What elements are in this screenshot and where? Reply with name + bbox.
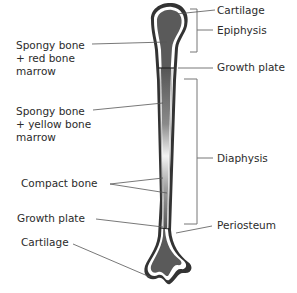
label-diaphysis: Diaphysis — [217, 152, 268, 165]
leader-lines — [73, 10, 215, 277]
brackets — [184, 9, 213, 224]
diaphysis-bracket — [184, 79, 197, 224]
label-spongy-yellow: Spongy bone + yellow bone marrow — [16, 105, 91, 144]
label-spongy-red: Spongy bone + red bone marrow — [16, 39, 85, 78]
bone-diagram: Spongy bone + red bone marrow Spongy bon… — [0, 0, 297, 293]
bone-outline — [144, 3, 191, 284]
label-cartilage-left: Cartilage — [21, 236, 69, 249]
label-growth-plate-left: Growth plate — [17, 212, 85, 225]
label-periosteum: Periosteum — [217, 219, 276, 232]
label-compact-bone: Compact bone — [21, 177, 98, 190]
epiphysis-bracket — [190, 9, 197, 52]
label-epiphysis: Epiphysis — [217, 24, 267, 37]
label-growth-plate-right: Growth plate — [217, 61, 285, 74]
label-cartilage-right: Cartilage — [217, 4, 265, 17]
